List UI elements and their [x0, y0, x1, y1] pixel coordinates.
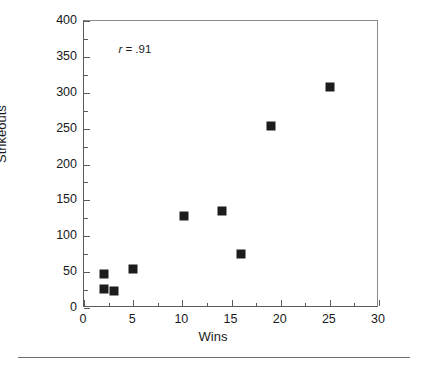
x-tick-minor — [158, 303, 159, 307]
x-tick-label: 5 — [129, 312, 136, 326]
y-tick-label: 350 — [33, 49, 77, 63]
x-tick-label: 25 — [322, 312, 336, 326]
plot-wrapper: Strikeouts 050100150200250300350400 0510… — [0, 0, 426, 340]
y-tick-major — [84, 21, 90, 22]
x-tick-major — [281, 300, 282, 306]
x-tick-label: 10 — [174, 312, 188, 326]
y-tick-minor — [84, 111, 88, 112]
data-point — [109, 287, 118, 296]
y-tick-label: 400 — [33, 13, 77, 27]
x-axis-title: Wins — [0, 329, 426, 344]
y-tick-major — [84, 200, 90, 201]
x-tick-label: 15 — [224, 312, 238, 326]
y-tick-major — [84, 236, 90, 237]
figure-bottom-rule — [18, 357, 410, 358]
plot-area: r = .91 — [83, 20, 378, 307]
y-tick-label: 300 — [33, 85, 77, 99]
y-tick-label: 0 — [33, 300, 77, 314]
y-tick-label: 250 — [33, 121, 77, 135]
x-tick-minor — [305, 303, 306, 307]
y-tick-major — [84, 93, 90, 94]
y-tick-major — [84, 57, 90, 58]
data-point — [129, 265, 138, 274]
y-tick-minor — [84, 290, 88, 291]
y-tick-minor — [84, 182, 88, 183]
x-tick-minor — [354, 303, 355, 307]
scatter-plot-figure: Strikeouts 050100150200250300350400 0510… — [0, 0, 426, 369]
correlation-value: = .91 — [122, 43, 151, 55]
x-tick-minor — [207, 303, 208, 307]
x-tick-major — [232, 300, 233, 306]
y-tick-major — [84, 129, 90, 130]
y-tick-major — [84, 308, 90, 309]
x-tick-major — [182, 300, 183, 306]
y-axis-title: Strikeouts — [0, 105, 9, 163]
y-tick-minor — [84, 218, 88, 219]
x-tick-minor — [109, 303, 110, 307]
y-tick-label: 150 — [33, 192, 77, 206]
y-tick-minor — [84, 147, 88, 148]
y-tick-major — [84, 272, 90, 273]
data-point — [99, 284, 108, 293]
data-point — [99, 270, 108, 279]
y-tick-minor — [84, 254, 88, 255]
x-tick-major — [84, 300, 85, 306]
data-point — [180, 212, 189, 221]
correlation-annotation: r = .91 — [118, 43, 151, 55]
x-tick-minor — [256, 303, 257, 307]
data-point — [266, 122, 275, 131]
x-tick-label: 30 — [371, 312, 385, 326]
y-tick-minor — [84, 39, 88, 40]
x-tick-label: 0 — [80, 312, 87, 326]
y-tick-label: 200 — [33, 157, 77, 171]
x-tick-major — [330, 300, 331, 306]
y-tick-label: 50 — [33, 264, 77, 278]
data-point — [237, 250, 246, 259]
y-tick-minor — [84, 75, 88, 76]
y-tick-major — [84, 165, 90, 166]
x-tick-label: 20 — [273, 312, 287, 326]
x-tick-major — [133, 300, 134, 306]
y-tick-label: 100 — [33, 228, 77, 242]
x-tick-major — [379, 300, 380, 306]
data-point — [217, 207, 226, 216]
data-point — [325, 83, 334, 92]
